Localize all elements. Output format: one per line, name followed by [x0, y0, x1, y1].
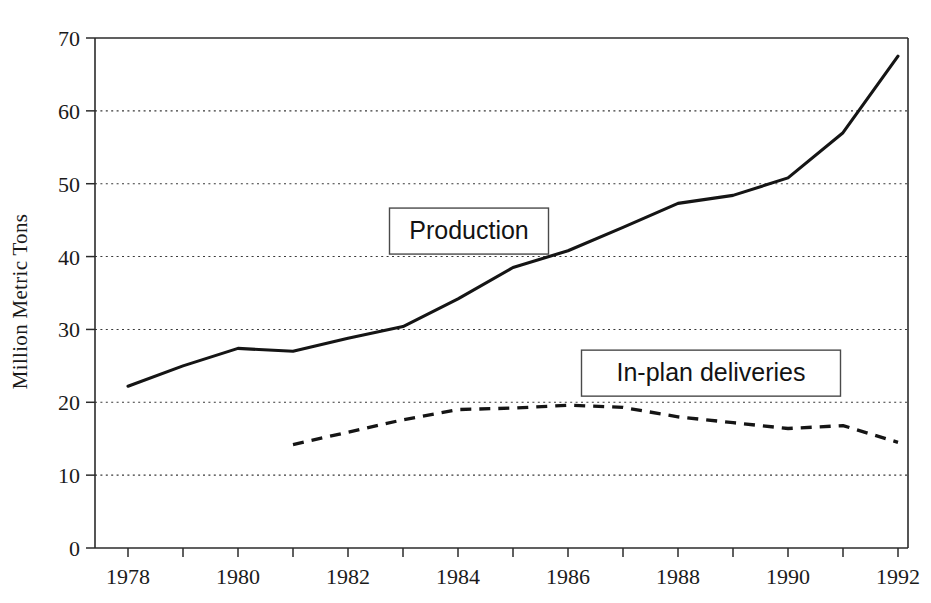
series-callouts-group: ProductionIn-plan deliveries [390, 208, 841, 396]
gridlines-group [95, 111, 908, 475]
series-line-in-plan-deliveries [293, 405, 898, 444]
y-tick-label-50: 50 [58, 172, 80, 197]
x-tick-label-1978: 1978 [106, 564, 150, 589]
x-tick-label-1992: 1992 [876, 564, 920, 589]
y-tick-label-0: 0 [69, 536, 80, 561]
x-tick-label-1982: 1982 [326, 564, 370, 589]
y-tick-label-60: 60 [58, 99, 80, 124]
callout-label: Production [409, 216, 529, 244]
callout-production: Production [390, 208, 549, 254]
y-tick-label-20: 20 [58, 390, 80, 415]
callout-in-plan-deliveries: In-plan deliveries [582, 350, 841, 396]
y-axis-ticks: 010203040506070 [58, 26, 95, 561]
plot-frame [95, 38, 908, 548]
y-tick-label-30: 30 [58, 317, 80, 342]
y-tick-label-10: 10 [58, 463, 80, 488]
x-tick-label-1986: 1986 [546, 564, 590, 589]
x-axis-ticks: 19781980198219841986198819901992 [106, 548, 920, 589]
x-tick-label-1980: 1980 [216, 564, 260, 589]
chart-figure: Million Metric Tons 010203040506070 1978… [0, 0, 931, 603]
x-tick-label-1990: 1990 [766, 564, 810, 589]
y-tick-label-40: 40 [58, 245, 80, 270]
callout-label: In-plan deliveries [617, 358, 806, 386]
x-tick-label-1988: 1988 [656, 564, 700, 589]
line-chart-plot: 010203040506070 197819801982198419861988… [0, 0, 931, 603]
y-tick-label-70: 70 [58, 26, 80, 51]
x-tick-label-1984: 1984 [436, 564, 480, 589]
